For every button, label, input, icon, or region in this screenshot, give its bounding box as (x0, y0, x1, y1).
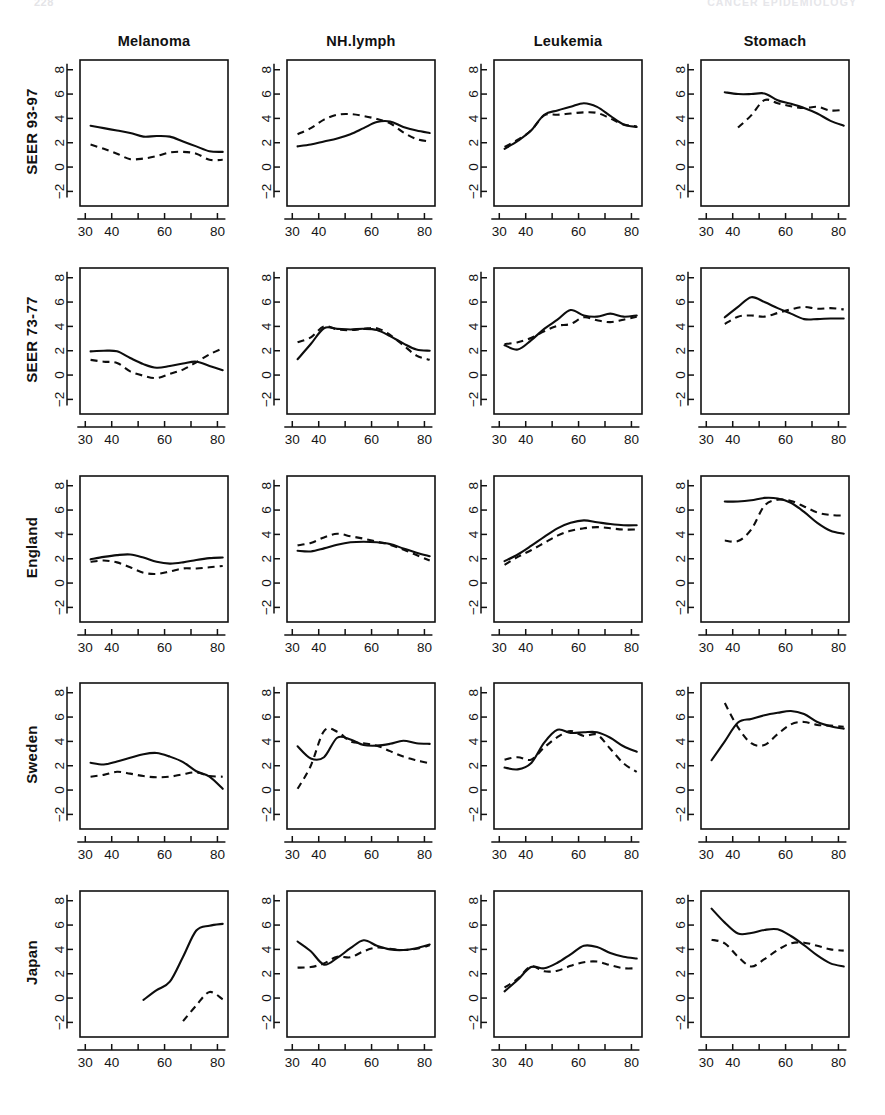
x-tick-label: 60 (778, 432, 793, 447)
x-tick-label: 60 (157, 847, 172, 862)
y-tick-label: 8 (674, 689, 689, 697)
x-tick-label: 30 (285, 847, 300, 862)
y-tick-label: 4 (260, 530, 275, 538)
y-tick-label: 8 (53, 689, 68, 697)
y-tick-label: 8 (53, 897, 68, 905)
y-tick-label: 2 (674, 970, 689, 978)
y-tick-label: −2 (260, 600, 275, 615)
y-tick-label: 0 (53, 786, 68, 794)
x-tick-label: 30 (492, 224, 507, 239)
y-tick-label: 8 (674, 66, 689, 74)
y-tick-label: 2 (674, 139, 689, 147)
plot-frame (494, 891, 642, 1037)
y-tick-label: 2 (260, 347, 275, 355)
plot-frame (287, 476, 435, 622)
plot-frame (701, 268, 849, 414)
x-tick-label: 40 (104, 640, 119, 655)
y-tick-label: 4 (467, 114, 482, 122)
y-tick-label: 2 (467, 139, 482, 147)
y-tick-label: −2 (53, 184, 68, 199)
series-dashed (91, 145, 223, 161)
plot-frame (494, 268, 642, 414)
x-tick-label: 40 (104, 847, 119, 862)
plot-frame (701, 60, 849, 206)
y-tick-label: 2 (260, 970, 275, 978)
series-solid (505, 945, 637, 991)
x-tick-label: 60 (157, 640, 172, 655)
y-tick-label: −2 (260, 1015, 275, 1030)
x-tick-label: 40 (518, 224, 533, 239)
y-tick-label: 6 (467, 298, 482, 306)
y-tick-label: 2 (467, 347, 482, 355)
plot-frame (287, 891, 435, 1037)
series-solid (725, 498, 844, 534)
panel-england-stomach: −20246830406080 (655, 462, 867, 668)
x-tick-label: 60 (364, 847, 379, 862)
panel-england-nh-lymph: −20246830406080 (241, 462, 453, 668)
y-tick-label: −2 (674, 807, 689, 822)
y-tick-label: 0 (260, 579, 275, 587)
y-tick-label: 6 (467, 506, 482, 514)
panel-japan-leukemia: −20246830406080 (448, 877, 660, 1083)
series-solid (91, 126, 223, 152)
x-tick-label: 80 (624, 224, 639, 239)
panel-seer-73-77-melanoma: −20246830406080 (34, 254, 246, 460)
y-tick-label: 4 (467, 945, 482, 953)
y-tick-label: 6 (260, 506, 275, 514)
y-tick-label: 6 (53, 506, 68, 514)
y-tick-label: 6 (467, 90, 482, 98)
y-tick-label: 4 (260, 322, 275, 330)
y-tick-label: −2 (467, 807, 482, 822)
y-tick-label: 6 (467, 713, 482, 721)
series-dashed (712, 940, 844, 967)
plot-frame (80, 683, 228, 829)
panel-sweden-melanoma: −20246830406080 (34, 669, 246, 875)
x-tick-label: 40 (518, 1055, 533, 1070)
y-tick-label: 4 (674, 114, 689, 122)
y-tick-label: 0 (467, 371, 482, 379)
y-tick-label: 2 (53, 762, 68, 770)
y-tick-label: 2 (53, 139, 68, 147)
x-tick-label: 60 (571, 640, 586, 655)
panel-sweden-stomach: −20246830406080 (655, 669, 867, 875)
x-tick-label: 60 (157, 224, 172, 239)
y-tick-label: 4 (674, 737, 689, 745)
y-tick-label: 0 (674, 579, 689, 587)
plot-frame (80, 891, 228, 1037)
y-tick-label: 6 (260, 90, 275, 98)
y-tick-label: 4 (53, 322, 68, 330)
y-tick-label: 0 (260, 786, 275, 794)
series-dashed (298, 728, 430, 789)
y-tick-label: 0 (674, 371, 689, 379)
x-tick-label: 80 (417, 847, 432, 862)
x-tick-label: 40 (104, 1055, 119, 1070)
x-tick-label: 80 (417, 224, 432, 239)
x-tick-label: 30 (285, 432, 300, 447)
plot-frame (80, 60, 228, 206)
y-tick-label: 8 (260, 897, 275, 905)
y-tick-label: 6 (53, 921, 68, 929)
x-tick-label: 30 (699, 224, 714, 239)
y-tick-label: 0 (467, 579, 482, 587)
x-tick-label: 80 (210, 432, 225, 447)
series-solid (298, 737, 430, 760)
x-tick-label: 60 (778, 224, 793, 239)
x-tick-label: 60 (571, 432, 586, 447)
y-tick-label: 6 (674, 506, 689, 514)
series-dashed (298, 326, 430, 360)
x-tick-label: 30 (285, 640, 300, 655)
y-tick-label: 4 (260, 737, 275, 745)
x-tick-label: 60 (364, 224, 379, 239)
plot-frame (494, 60, 642, 206)
x-tick-label: 60 (157, 432, 172, 447)
y-tick-label: −2 (467, 1015, 482, 1030)
x-tick-label: 40 (311, 224, 326, 239)
y-tick-label: 2 (53, 347, 68, 355)
x-tick-label: 80 (210, 1055, 225, 1070)
series-dashed (505, 961, 637, 987)
y-tick-label: −2 (53, 392, 68, 407)
x-tick-label: 40 (725, 432, 740, 447)
series-dashed (505, 527, 637, 565)
series-dashed (91, 772, 223, 778)
x-tick-label: 40 (725, 224, 740, 239)
